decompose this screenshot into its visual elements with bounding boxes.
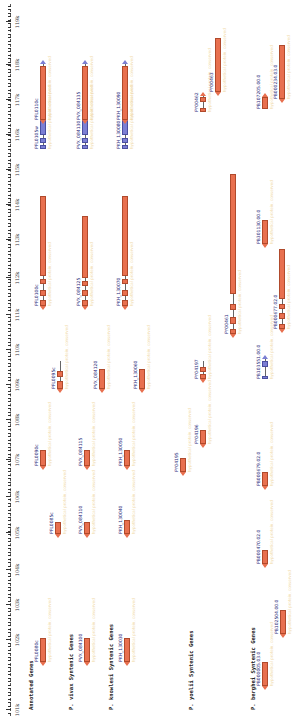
gene-description: hypothetical protein, conserved bbox=[187, 408, 192, 472]
gene-name-label[interactable]: PFL0100c bbox=[34, 284, 39, 306]
ruler-tick-label: 105k bbox=[14, 527, 20, 540]
gene-name-label[interactable]: PFL0110c bbox=[34, 98, 39, 120]
gene-name-label[interactable]: PB000679.02.0 bbox=[256, 452, 261, 486]
gene-name-label[interactable]: PFL0085c bbox=[49, 512, 54, 534]
gene-name-label[interactable]: PKH_130070 bbox=[116, 278, 121, 306]
ruler-minor-tick bbox=[8, 395, 11, 396]
ruler-minor-tick bbox=[8, 419, 11, 420]
gene-feature[interactable] bbox=[279, 45, 285, 99]
strand-arrow-left-icon bbox=[280, 634, 286, 638]
gene-feature[interactable] bbox=[82, 66, 88, 120]
gene-name-label[interactable]: PFL0095c bbox=[51, 367, 56, 389]
gene-feature[interactable] bbox=[200, 96, 206, 112]
gene-name-label[interactable]: PB000677.02.0 bbox=[273, 295, 278, 329]
ruler-minor-tick bbox=[8, 34, 11, 35]
gene-name-label[interactable]: PKH_130040 bbox=[118, 506, 123, 534]
gene-name-label[interactable]: PB301130.00.0 bbox=[256, 210, 261, 244]
gene-name-label[interactable]: PKH_130090 bbox=[116, 92, 121, 120]
gene-feature[interactable] bbox=[40, 638, 46, 662]
ruler-minor-tick bbox=[8, 661, 11, 662]
gene-feature[interactable] bbox=[124, 520, 130, 534]
ruler-minor-tick bbox=[8, 48, 11, 49]
gene-name-label[interactable]: PY00461 bbox=[224, 314, 229, 334]
gene-name-label[interactable]: PKH_130080 bbox=[116, 121, 121, 149]
gene-feature[interactable] bbox=[84, 450, 90, 466]
gene-name-label[interactable]: PVX_084120 bbox=[93, 361, 98, 389]
gene-feature[interactable] bbox=[84, 522, 90, 534]
gene-feature[interactable] bbox=[280, 610, 286, 634]
ruler-minor-tick bbox=[8, 76, 11, 77]
strand-arrow-left-icon bbox=[122, 306, 128, 310]
ruler-minor-tick bbox=[8, 41, 11, 42]
gene-feature[interactable] bbox=[82, 216, 88, 306]
ruler-minor-tick bbox=[8, 307, 11, 308]
gene-name-label[interactable]: PVX_084110 bbox=[78, 506, 83, 534]
gene-name-label[interactable]: PB102504.00.0 bbox=[274, 600, 279, 634]
gene-name-label[interactable]: PVX_084100 bbox=[78, 634, 83, 662]
gene-feature[interactable] bbox=[230, 174, 236, 334]
ruler-minor-tick bbox=[8, 409, 11, 410]
gene-feature[interactable] bbox=[122, 196, 128, 306]
gene-name-label[interactable]: PVX_084115 bbox=[78, 438, 83, 466]
gene-feature[interactable] bbox=[200, 361, 206, 379]
gene-name-label[interactable]: PFL0080c bbox=[34, 640, 39, 662]
gene-feature[interactable] bbox=[262, 550, 268, 564]
gene-feature[interactable] bbox=[40, 196, 46, 306]
ruler-minor-tick bbox=[8, 605, 11, 606]
gene-name-label[interactable]: PY04196 bbox=[194, 424, 199, 444]
gene-name-label[interactable]: PKH_130050 bbox=[118, 438, 123, 466]
gene-description: hypothetical protein, conserved bbox=[47, 242, 52, 306]
gene-name-label[interactable]: PB107205.00.0 bbox=[256, 75, 261, 109]
gene-name-label[interactable]: PB000005.03.0 bbox=[256, 652, 261, 686]
gene-feature[interactable] bbox=[99, 369, 105, 389]
ruler-minor-tick bbox=[8, 521, 11, 522]
gene-feature[interactable] bbox=[84, 638, 90, 662]
strand-arrow-left-icon bbox=[262, 244, 268, 248]
gene-name-label[interactable]: PKH_130060 bbox=[133, 361, 138, 389]
exon-block bbox=[82, 216, 88, 278]
gene-feature[interactable] bbox=[122, 66, 128, 120]
strand-arrow-right-icon bbox=[40, 60, 46, 64]
gene-name-label[interactable]: PVX_084125 bbox=[76, 278, 81, 306]
ruler-minor-tick bbox=[8, 255, 11, 256]
ruler-tick-label: 111k bbox=[14, 309, 20, 322]
gene-feature[interactable] bbox=[40, 450, 46, 466]
gene-name-label[interactable]: PFL0105w bbox=[34, 126, 39, 149]
gene-name-label[interactable]: PY04195 bbox=[174, 452, 179, 472]
gene-name-label[interactable]: PY04197 bbox=[194, 359, 199, 379]
ruler-minor-tick bbox=[8, 13, 11, 14]
ruler-minor-tick bbox=[8, 174, 11, 175]
gene-feature[interactable] bbox=[262, 472, 268, 486]
gene-feature[interactable] bbox=[40, 66, 46, 120]
gene-feature[interactable] bbox=[262, 662, 268, 686]
gene-name-label[interactable]: PFL0090c bbox=[34, 444, 39, 466]
gene-name-label[interactable]: PB000234.03.0 bbox=[273, 65, 278, 99]
gene-feature[interactable] bbox=[262, 359, 268, 379]
ruler-minor-tick bbox=[8, 584, 11, 585]
gene-feature[interactable] bbox=[262, 97, 268, 109]
gene-name-label[interactable]: PB000470.02.0 bbox=[256, 530, 261, 564]
gene-feature[interactable] bbox=[124, 450, 130, 466]
ruler-minor-tick bbox=[8, 220, 11, 221]
gene-feature[interactable] bbox=[215, 38, 221, 92]
ruler-minor-tick bbox=[8, 136, 11, 137]
ruler-minor-tick bbox=[8, 556, 11, 557]
gene-name-label[interactable]: PB103551.00.0 bbox=[256, 345, 261, 379]
gene-feature[interactable] bbox=[180, 458, 186, 472]
gene-feature[interactable] bbox=[139, 369, 145, 389]
gene-name-label[interactable]: PKH_130030 bbox=[118, 634, 123, 662]
gene-feature[interactable] bbox=[200, 430, 206, 444]
ruler-minor-tick bbox=[8, 510, 11, 511]
ruler-minor-tick bbox=[8, 447, 11, 448]
gene-feature[interactable] bbox=[262, 220, 268, 244]
gene-name-label[interactable]: PVX_084135 bbox=[76, 92, 81, 120]
gene-name-label[interactable]: PY00463 bbox=[209, 72, 214, 92]
gene-feature[interactable] bbox=[57, 361, 63, 389]
exon-block bbox=[200, 108, 206, 112]
gene-feature[interactable] bbox=[279, 249, 285, 329]
gene-feature[interactable] bbox=[55, 522, 61, 534]
ruler-minor-tick bbox=[8, 496, 11, 497]
gene-name-label[interactable]: PVX_084130 bbox=[76, 121, 81, 149]
gene-feature[interactable] bbox=[124, 638, 130, 662]
gene-name-label[interactable]: PY00462 bbox=[194, 92, 199, 112]
